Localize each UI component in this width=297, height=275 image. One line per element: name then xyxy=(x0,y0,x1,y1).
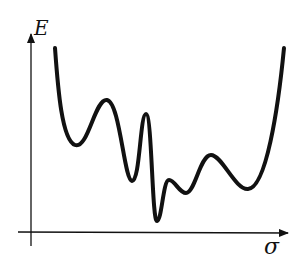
energy-landscape-diagram xyxy=(0,0,297,275)
y-axis-label: E xyxy=(34,16,49,40)
energy-curve xyxy=(55,48,284,221)
x-axis xyxy=(18,232,288,233)
x-axis-label: σ xyxy=(264,234,279,259)
